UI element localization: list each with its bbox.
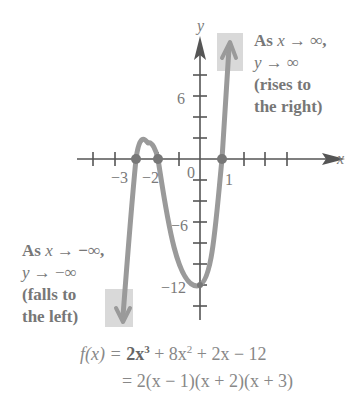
annot-right-l2-var: y — [254, 53, 262, 72]
curve — [123, 48, 229, 316]
formula-leading-term: 2x — [126, 344, 144, 364]
y-intercept-point — [197, 282, 203, 288]
annot-left-l1-var: x — [45, 241, 53, 260]
annot-left-l2-var: y — [22, 263, 30, 282]
annot-right-l1-suffix: → ∞, — [285, 31, 327, 50]
annot-right-l1-prefix: As — [254, 31, 277, 50]
tick-label-1: 1 — [225, 172, 233, 188]
tick-label-neg3: −3 — [111, 170, 128, 186]
annot-left-l4: the left) — [22, 306, 104, 328]
tick-label-6: 6 — [177, 91, 185, 107]
zero-point-1 — [217, 154, 227, 164]
annot-right-l1-var: x — [277, 31, 285, 50]
annot-right-l2-suffix: → ∞ — [262, 53, 300, 72]
annot-left-l2-suffix: → −∞ — [30, 263, 77, 282]
zero-point-neg3 — [131, 154, 141, 164]
formula-line-2: = 2(x − 1)(x + 2)(x + 3) — [122, 372, 293, 390]
annot-right-l3: (rises to — [254, 74, 327, 96]
annot-left-l1-suffix: → −∞, — [53, 241, 105, 260]
tick-label-neg6: −6 — [171, 218, 188, 234]
annot-left-l1-prefix: As — [22, 241, 45, 260]
annot-left-l3: (falls to — [22, 284, 104, 306]
y-axis-label: y — [197, 18, 204, 34]
tick-label-0: 0 — [187, 165, 195, 181]
tick-label-neg2: −2 — [142, 170, 159, 186]
formula-term2: + 8x — [150, 344, 187, 364]
zero-point-neg2 — [153, 154, 163, 164]
formula-lhs: f(x) = — [80, 344, 126, 364]
x-axis-label: x — [337, 151, 344, 167]
annotation-rises-right: As x → ∞, y → ∞ (rises to the right) — [254, 30, 327, 118]
annotation-falls-left: As x → −∞, y → −∞ (falls to the left) — [22, 240, 104, 328]
tick-label-neg12: −12 — [161, 280, 186, 296]
formula-rest: + 2x − 12 — [192, 344, 266, 364]
x-axis — [77, 152, 336, 166]
formula-line-1: f(x) = 2x3 + 8x2 + 2x − 12 — [80, 344, 267, 363]
annot-right-l4: the right) — [254, 96, 327, 118]
